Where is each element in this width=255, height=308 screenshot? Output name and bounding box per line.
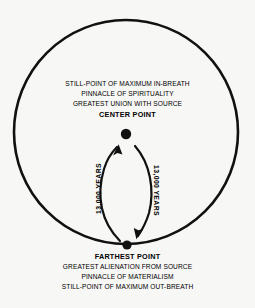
center-desc-line-1: STILL-POINT OF MAXIMUM IN-BREATH (9, 79, 246, 89)
farthest-desc-line-2: PINNACLE OF MATERIALISM (9, 272, 246, 282)
farthest-desc-line-1: GREATEST ALIENATION FROM SOURCE (9, 262, 246, 272)
farthest-point-label: FARTHEST POINT (9, 251, 246, 262)
in-breath-years-label: 13,000 YEARS (95, 159, 102, 219)
center-desc-line-3: GREATEST UNION WITH SOURCE (9, 99, 246, 109)
farthest-desc-line-3: STILL-POINT OF MAXIMUM OUT-BREATH (9, 282, 246, 292)
center-point-dot (121, 129, 131, 139)
in-breath-arrow (100, 144, 122, 241)
center-point-label: CENTER POINT (9, 109, 246, 120)
farthest-point-dot (122, 240, 131, 249)
center-point-text-block: STILL-POINT OF MAXIMUM IN-BREATH PINNACL… (0, 79, 255, 120)
farthest-point-text-block: FARTHEST POINT GREATEST ALIENATION FROM … (0, 251, 255, 292)
center-desc-line-2: PINNACLE OF SPIRITUALITY (9, 89, 246, 99)
breath-cycle-diagram: STILL-POINT OF MAXIMUM IN-BREATH PINNACL… (0, 0, 255, 308)
out-breath-years-label: 13,000 YEARS (153, 161, 160, 221)
out-breath-arrow (134, 146, 152, 239)
